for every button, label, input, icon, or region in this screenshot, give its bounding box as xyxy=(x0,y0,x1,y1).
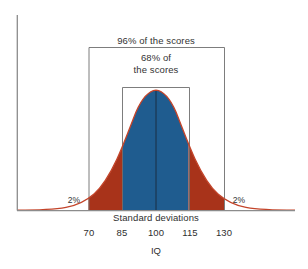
axis-caption-standard-deviations: Standard deviations xyxy=(113,212,199,223)
inner-band-label-line1: 68% of xyxy=(141,52,171,63)
left-tail-percent-label: 2% xyxy=(68,195,81,205)
inner-band-label-line2: the scores xyxy=(134,64,179,75)
tick-label-85: 85 xyxy=(117,227,128,238)
x-axis-name-iq: IQ xyxy=(151,245,161,256)
tick-label-100: 100 xyxy=(148,227,164,238)
iq-distribution-chart: 96% of the scores 68% of the scores 2% 2… xyxy=(0,0,308,269)
tick-label-70: 70 xyxy=(84,227,95,238)
tick-label-115: 115 xyxy=(182,227,197,238)
tick-label-130: 130 xyxy=(216,227,232,238)
right-tail-percent-label: 2% xyxy=(233,195,246,205)
outer-band-label: 96% of the scores xyxy=(117,35,195,46)
